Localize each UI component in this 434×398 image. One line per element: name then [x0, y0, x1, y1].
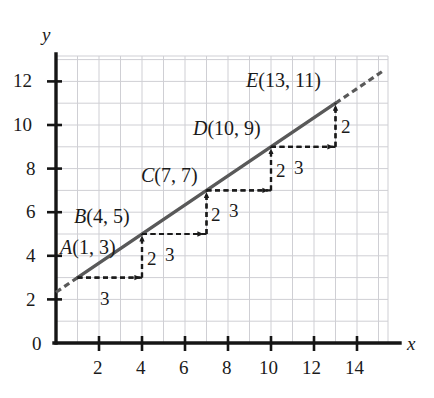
point-name-C: C: [141, 164, 154, 186]
coordinate-graph-figure: y x 0 12 10 8 6 4 2 2 4 6 8 10 12 14 A(1…: [0, 0, 434, 398]
point-label-C: C(7, 7): [141, 165, 198, 185]
x-tick-label-12: 12: [302, 358, 321, 377]
x-axis-label: x: [407, 334, 415, 353]
point-name-B: B: [74, 205, 86, 227]
point-label-D: D(10, 9): [193, 118, 261, 138]
rise-label-1: 2: [147, 249, 157, 268]
rise-label-2: 2: [211, 205, 221, 224]
run-label-1: 3: [100, 289, 110, 308]
y-tick-label-4: 4: [26, 246, 36, 265]
y-tick-label-6: 6: [26, 202, 36, 221]
plot-canvas: [0, 0, 434, 398]
x-tick-label-10: 10: [259, 358, 278, 377]
point-coords-C: (7, 7): [154, 164, 197, 186]
origin-label: 0: [32, 334, 42, 353]
y-tick-label-10: 10: [13, 115, 32, 134]
rise-label-3: 2: [276, 161, 286, 180]
line-dashed-left: [56, 278, 78, 293]
rise-label-4: 2: [341, 117, 351, 136]
point-coords-E: (13, 11): [258, 69, 321, 91]
y-tick-label-2: 2: [26, 290, 36, 309]
y-axis-label: y: [42, 25, 50, 44]
run-label-2: 3: [165, 245, 175, 264]
point-label-A: A(1, 3): [60, 237, 116, 257]
y-tick-label-12: 12: [13, 71, 32, 90]
x-tick-label-4: 4: [136, 358, 146, 377]
x-tick-label-14: 14: [345, 358, 364, 377]
point-name-A: A: [60, 236, 72, 258]
x-tick-label-6: 6: [179, 358, 189, 377]
x-tick-label-2: 2: [93, 358, 103, 377]
point-coords-D: (10, 9): [207, 117, 260, 139]
x-tick-label-8: 8: [222, 358, 232, 377]
point-label-E: E(13, 11): [246, 70, 321, 90]
point-label-B: B(4, 5): [74, 206, 130, 226]
run-label-4: 3: [294, 158, 304, 177]
y-tick-label-8: 8: [26, 159, 36, 178]
point-name-D: D: [193, 117, 207, 139]
point-name-E: E: [246, 69, 258, 91]
point-coords-B: (4, 5): [86, 205, 129, 227]
line-dashed-right: [336, 71, 384, 103]
point-coords-A: (1, 3): [72, 236, 115, 258]
run-label-3: 3: [229, 201, 239, 220]
